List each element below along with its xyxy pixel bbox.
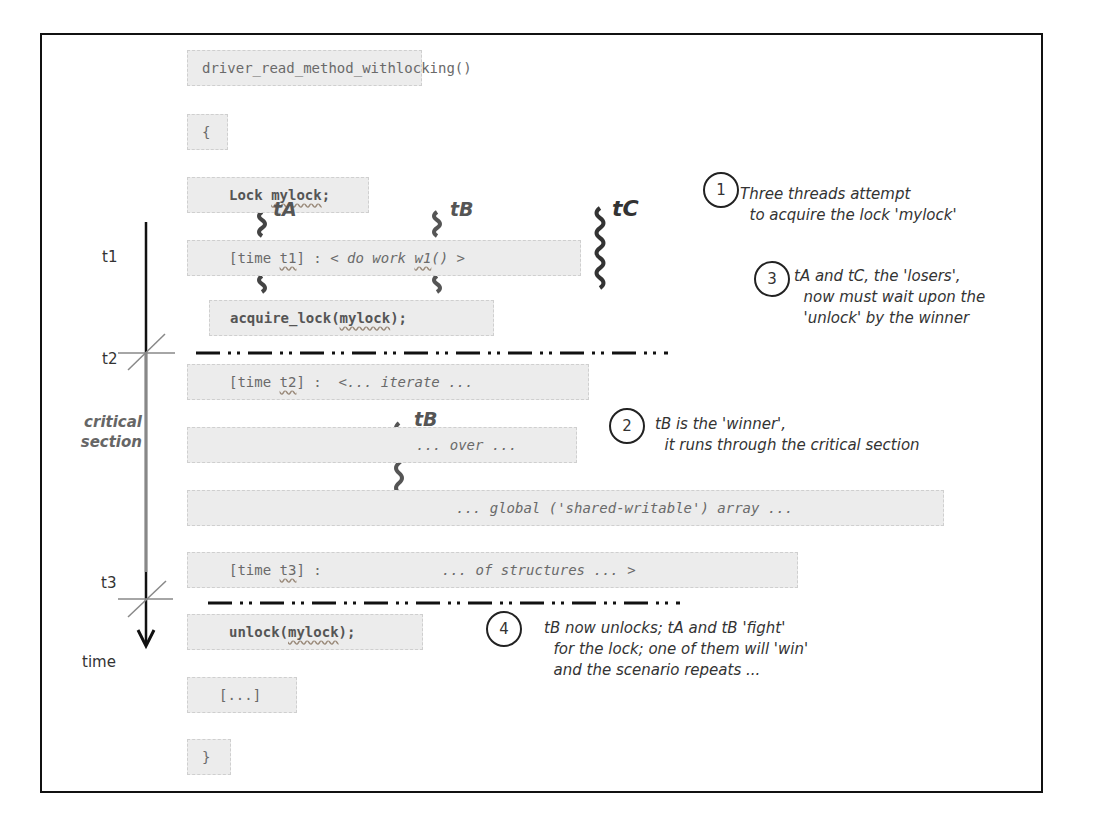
timeline-label-t1: t1: [102, 248, 117, 266]
thread-label-ta: tA: [273, 198, 297, 220]
annotation-text-1: Three threads attempt to acquire the loc…: [740, 184, 957, 226]
thread-ta-squiggle-icon: [259, 212, 265, 236]
thread-label-tb: tB: [450, 198, 474, 220]
code-over: ... over ...: [187, 427, 577, 463]
annotation-text-4: tB now unlocks; tA and tB 'fight' for th…: [544, 618, 808, 681]
timeline-label-t2: t2: [102, 350, 117, 368]
diagram-lines: [0, 0, 1104, 835]
thread-label-tc: tC: [612, 196, 639, 221]
code-func-signature: driver_read_method_withlocking(): [187, 50, 422, 86]
annotation-number-3: 3: [754, 261, 790, 297]
code-global-array: ... global ('shared-writable') array ...: [187, 490, 944, 526]
code-ellipsis: [...]: [187, 677, 297, 713]
annotation-number-1: 1: [703, 172, 739, 208]
annotation-number-2: 2: [609, 408, 645, 444]
code-time-t1: [time t1] : < do work w1() >: [187, 240, 581, 276]
code-unlock: unlock(mylock);: [187, 614, 423, 650]
timeline-label-t3: t3: [101, 574, 116, 592]
code-acquire-lock: acquire_lock(mylock);: [209, 300, 494, 336]
critical-section-label: criticalsection: [58, 412, 142, 452]
code-time-t3: [time t3] :... of structures ... >: [187, 552, 798, 588]
annotation-text-3: tA and tC, the 'losers', now must wait u…: [794, 266, 985, 329]
thread-tc-squiggle-icon: [597, 208, 604, 288]
code-close-brace: }: [187, 739, 231, 775]
timeline-axis-label: time: [82, 653, 116, 671]
code-time-t2: [time t2] : <... iterate ...: [187, 364, 589, 400]
code-open-brace: {: [187, 114, 228, 150]
annotation-number-4: 4: [486, 611, 522, 647]
thread-tb-squiggle-icon: [434, 212, 440, 236]
annotation-text-2: tB is the 'winner', it runs through the …: [655, 414, 920, 456]
thread-label-tb-critical: tB: [414, 408, 438, 430]
